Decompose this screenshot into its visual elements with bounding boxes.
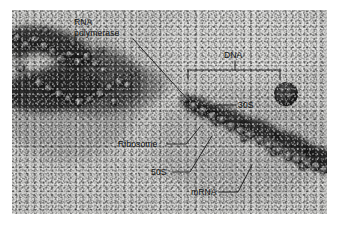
mrna-label: mRNA (191, 187, 217, 197)
thirty-s-label: 30S (238, 100, 254, 110)
fifty-s-leader (172, 136, 212, 172)
rna-polymerase-label-line1: RNA (74, 17, 93, 27)
thirty-s-leader (205, 105, 236, 116)
annotation-overlay: RNA polymerase DNA 30S Ribosome 50S mRNA (0, 0, 341, 229)
ribosome-label: Ribosome (118, 139, 158, 149)
rna-polymerase-label-line2: polymerase (74, 28, 120, 38)
micrograph-figure: RNA polymerase DNA 30S Ribosome 50S mRNA (0, 0, 341, 229)
dna-label: DNA (224, 50, 243, 60)
rna-polymerase-leader (133, 39, 190, 102)
mrna-leader (219, 165, 252, 192)
dna-bracket (188, 61, 280, 79)
fifty-s-label: 50S (151, 167, 167, 177)
ribosome-leader (167, 127, 200, 144)
